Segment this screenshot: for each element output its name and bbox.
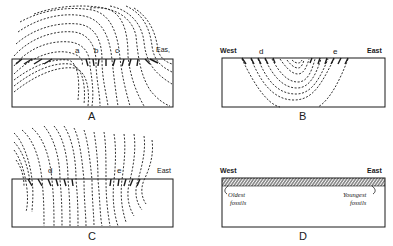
- panel-b: [222, 58, 385, 107]
- panel-c: [12, 126, 173, 227]
- youngest-line-1: Youngest: [343, 191, 366, 199]
- panel-c-overturned-lines: [14, 126, 153, 226]
- youngest-line-2: fossils: [343, 199, 366, 207]
- label-d-c: d: [48, 167, 52, 175]
- oldest-fossils-label: Oldest fossils: [228, 191, 246, 207]
- panel-a: [12, 6, 173, 107]
- label-west-b: West: [220, 47, 237, 55]
- label-east-c: East: [157, 167, 171, 175]
- label-east-d: East: [367, 167, 382, 175]
- youngest-arrow-icon: [372, 186, 375, 194]
- label-e-b: e: [333, 48, 337, 56]
- panel-a-strata-lines: [14, 6, 172, 106]
- label-east-a: Eas,: [156, 46, 170, 54]
- label-e-c: e: [117, 167, 121, 175]
- oldest-line-2: fossils: [228, 199, 246, 207]
- oldest-line-1: Oldest: [228, 191, 246, 199]
- panel-letter-c: C: [88, 231, 96, 242]
- panel-b-box: [222, 58, 385, 107]
- panel-letter-d: D: [299, 231, 307, 242]
- label-c: c: [115, 47, 119, 55]
- diagram-canvas: [0, 0, 393, 246]
- panel-letter-b: B: [299, 111, 306, 122]
- youngest-fossils-label: Youngest fossils: [343, 191, 366, 207]
- label-b: b: [94, 47, 98, 55]
- label-west-d: West: [220, 167, 237, 175]
- panel-b-syncline-lines: [242, 59, 348, 107]
- panel-letter-a: A: [88, 111, 95, 122]
- panel-b-outcrop-marks: [242, 58, 348, 64]
- label-d-b: d: [259, 48, 263, 56]
- panel-a-outcrop-marks: [16, 59, 158, 66]
- label-a: a: [75, 47, 79, 55]
- label-east-b: East: [367, 47, 382, 55]
- panel-d-hatched-layer: [222, 178, 385, 186]
